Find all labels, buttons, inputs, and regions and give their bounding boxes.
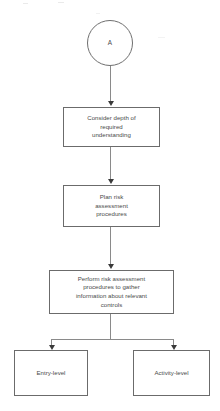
process-box-perform-risk-assessment[interactable]: Perform risk assessment procedures to ga…	[49, 270, 174, 314]
process-box-plan-risk-assessment[interactable]: Plan risk assessment procedures	[63, 185, 160, 227]
process-box-consider-depth[interactable]: Consider depth of required understanding	[63, 107, 160, 147]
process-box-entry-level[interactable]: Entry-level	[14, 350, 88, 396]
connector-node-a-label: A	[108, 39, 112, 48]
process-box-plan-risk-assessment-label: Plan risk assessment procedures	[95, 193, 128, 219]
edge-step2-to-step3	[110, 227, 111, 265]
branch-bar	[51, 339, 174, 340]
process-box-activity-level-label: Activity-level	[154, 369, 188, 378]
scan-artifact	[96, 13, 100, 14]
process-box-entry-level-label: Entry-level	[36, 369, 65, 378]
scan-artifact	[23, 3, 28, 4]
process-box-consider-depth-label: Consider depth of required understanding	[87, 114, 135, 140]
process-box-perform-risk-assessment-label: Perform risk assessment procedures to ga…	[76, 275, 147, 309]
process-box-activity-level[interactable]: Activity-level	[133, 350, 210, 396]
edge-a-to-step1	[110, 66, 111, 102]
arrowhead-step2-to-step3	[108, 264, 114, 269]
arrowhead-a-to-step1	[108, 101, 114, 106]
edge-step1-to-step2	[110, 147, 111, 180]
scan-artifact	[58, 2, 64, 3]
edge-step3-to-branch	[110, 314, 111, 340]
connector-node-a[interactable]: A	[87, 20, 133, 66]
scan-artifact	[158, 37, 165, 38]
flowchart-canvas: A Consider depth of required understandi…	[0, 0, 220, 411]
arrowhead-step1-to-step2	[108, 179, 114, 184]
